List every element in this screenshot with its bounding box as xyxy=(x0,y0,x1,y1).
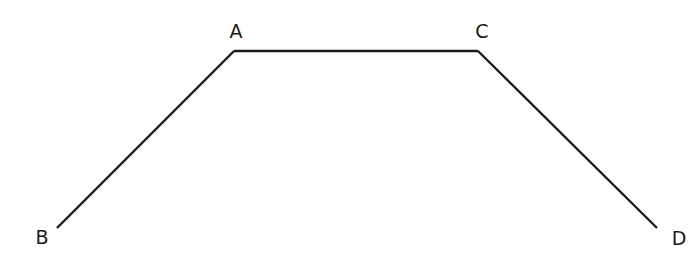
point-label-a: A xyxy=(230,20,243,42)
segment-CD xyxy=(478,51,657,228)
geometry-diagram: A C B D xyxy=(0,0,700,261)
point-label-b: B xyxy=(35,226,48,248)
segment-BA xyxy=(57,51,234,228)
point-label-c: C xyxy=(475,20,488,42)
point-label-d: D xyxy=(672,227,687,249)
